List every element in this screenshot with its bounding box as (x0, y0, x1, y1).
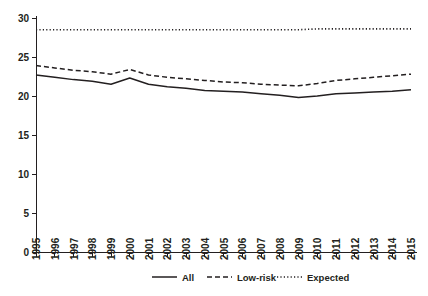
x-tick-label: 1998 (87, 237, 98, 260)
x-tick-label: 2009 (294, 237, 305, 260)
legend-label-all: All (182, 272, 194, 283)
x-tick-label: 2003 (181, 237, 192, 260)
y-tick-label: 20 (18, 91, 30, 102)
x-tick-label: 2013 (369, 237, 380, 260)
y-tick-label: 10 (18, 169, 30, 180)
x-tick-label: 2007 (256, 237, 267, 260)
x-tick-label: 2005 (219, 237, 230, 260)
y-tick-label: 0 (23, 247, 29, 258)
legend-label-expected: Expected (307, 272, 349, 283)
x-tick-label: 1999 (106, 237, 117, 260)
y-tick-label: 30 (18, 13, 30, 24)
x-tick-label: 2014 (387, 237, 398, 260)
x-tick-label: 2001 (144, 237, 155, 260)
x-tick-label: 2010 (312, 237, 323, 260)
x-axis: 1995199619971998199920002001200220032004… (31, 237, 417, 260)
x-tick-label: 2004 (200, 237, 211, 260)
x-tick-label: 2000 (125, 237, 136, 260)
x-tick-label: 2008 (275, 237, 286, 260)
x-tick-label: 2002 (162, 237, 173, 260)
y-tick-label: 25 (18, 52, 30, 63)
x-tick-label: 1996 (50, 237, 61, 260)
x-tick-label: 2015 (406, 237, 417, 260)
x-tick-label: 2012 (350, 237, 361, 260)
y-tick-label: 15 (18, 130, 30, 141)
y-tick-label: 5 (23, 208, 29, 219)
chart-legend: AllLow-riskExpected (152, 272, 349, 283)
x-tick-label: 1997 (69, 237, 80, 260)
x-tick-label: 2006 (237, 237, 248, 260)
x-tick-label: 1995 (31, 237, 42, 260)
x-tick-label: 2011 (331, 238, 342, 260)
line-chart: 051015202530 199519961997199819992000200… (0, 0, 428, 296)
legend-label-low-risk: Low-risk (237, 272, 277, 283)
